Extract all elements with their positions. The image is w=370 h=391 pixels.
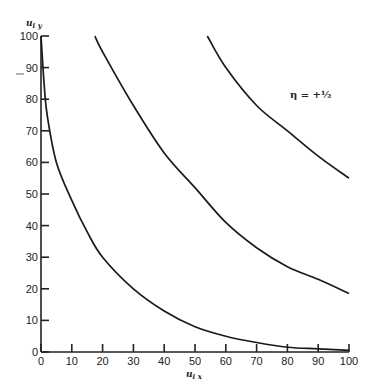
y-tick-label: 10 <box>26 314 38 326</box>
x-tick-label: 0 <box>38 355 44 367</box>
x-tick-label: 90 <box>312 355 324 367</box>
eta-annotation: η = +½ <box>290 89 331 100</box>
y-axis-label: ui y <box>26 18 43 30</box>
x-tick-label: 30 <box>127 355 139 367</box>
x-tick-label: 100 <box>340 355 358 367</box>
x-tick-label: 80 <box>281 355 293 367</box>
curve-1 <box>41 36 349 350</box>
y-tick-label: 30 <box>26 251 38 263</box>
chart: 0102030405060708090100010203040506070809… <box>0 0 370 391</box>
y-tick-label: 80 <box>26 93 38 105</box>
y-tick-label: 60 <box>26 156 38 168</box>
x-tick-label: 60 <box>220 355 232 367</box>
x-axis-label: ui x <box>186 369 203 381</box>
x-tick-label: 20 <box>96 355 108 367</box>
x-tick-label: 10 <box>66 355 78 367</box>
curve-3 <box>207 36 349 178</box>
x-tick-label: 40 <box>158 355 170 367</box>
y-tick-label: 90 <box>26 62 38 74</box>
x-tick-label: 50 <box>189 355 201 367</box>
curves <box>41 36 349 350</box>
y-tick-label: 20 <box>26 283 38 295</box>
y-tick-label: 70 <box>26 125 38 137</box>
y-tick-label: 50 <box>26 188 38 200</box>
x-tick-label: 70 <box>250 355 262 367</box>
y-tick-label: 40 <box>26 220 38 232</box>
curve-2 <box>95 36 349 294</box>
y-tick-label: 100 <box>20 30 38 42</box>
